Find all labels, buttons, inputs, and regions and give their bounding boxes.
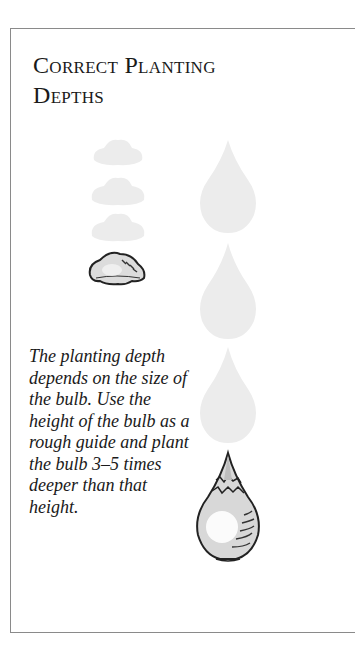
- large-bulb-figure: [188, 135, 268, 575]
- small-bulb-figure: [86, 130, 150, 290]
- page-title: Correct Planting Depths: [33, 50, 216, 110]
- small-bulb-ghost-icon: [92, 140, 145, 241]
- large-bulb-ghost-icon: [200, 140, 256, 443]
- title-line-2: Depths: [33, 82, 104, 108]
- title-line-1: Correct Planting: [33, 52, 216, 78]
- large-bulb-icon: [197, 453, 259, 561]
- small-bulb-icon: [90, 253, 145, 284]
- caption-text: The planting depth depends on the size o…: [29, 346, 199, 518]
- info-panel: [10, 28, 355, 633]
